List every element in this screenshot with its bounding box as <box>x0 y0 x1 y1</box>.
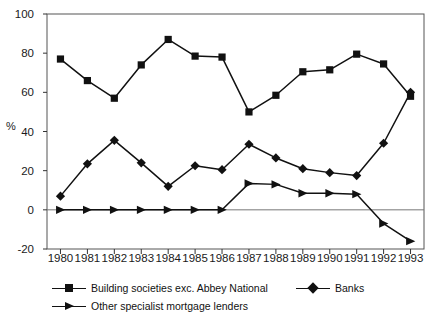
data-point-square <box>57 55 64 62</box>
data-point-square <box>111 95 118 102</box>
data-point-square <box>165 36 172 43</box>
data-point-diamond <box>271 153 280 162</box>
data-point-square <box>245 108 252 115</box>
plot-frame <box>47 14 424 249</box>
data-point-triangle <box>298 189 307 197</box>
legend-item-banks: Banks <box>296 282 364 294</box>
legend-label: Building societies exc. Abbey National <box>91 282 268 294</box>
data-point-square <box>84 77 91 84</box>
data-point-square <box>192 53 199 60</box>
data-point-square <box>218 53 225 60</box>
data-point-triangle <box>164 206 173 214</box>
data-point-triangle <box>191 206 200 214</box>
data-point-triangle <box>56 206 65 214</box>
data-point-square <box>138 61 145 68</box>
data-point-square <box>380 60 387 67</box>
data-point-triangle <box>83 206 92 214</box>
plot-area <box>0 0 441 322</box>
legend-item-building-societies: Building societies exc. Abbey National <box>52 282 268 294</box>
chart-legend: Building societies exc. Abbey National B… <box>0 278 441 322</box>
data-point-triangle <box>325 189 334 197</box>
legend-label: Banks <box>335 282 364 294</box>
series-line-diamond <box>56 88 415 201</box>
line-chart: % 100806040200-20 1980198119821983198419… <box>0 0 441 322</box>
legend-label: Other specialist mortgage lenders <box>91 300 248 312</box>
series-polyline <box>60 92 410 196</box>
series-line-triangle <box>56 179 415 245</box>
data-point-square <box>353 51 360 58</box>
data-point-triangle <box>245 179 254 187</box>
data-point-triangle <box>137 206 146 214</box>
data-point-diamond <box>325 168 334 177</box>
data-point-square <box>326 66 333 73</box>
series-line-square <box>57 36 414 116</box>
data-point-triangle <box>406 237 415 245</box>
legend-item-other-specialist: Other specialist mortgage lenders <box>52 300 248 312</box>
data-point-diamond <box>298 164 307 173</box>
data-point-triangle <box>110 206 119 214</box>
square-marker-icon <box>52 282 86 294</box>
triangle-marker-icon <box>52 300 86 312</box>
data-point-square <box>299 68 306 75</box>
data-point-triangle <box>271 180 280 188</box>
data-point-square <box>272 92 279 99</box>
diamond-marker-icon <box>296 282 330 294</box>
